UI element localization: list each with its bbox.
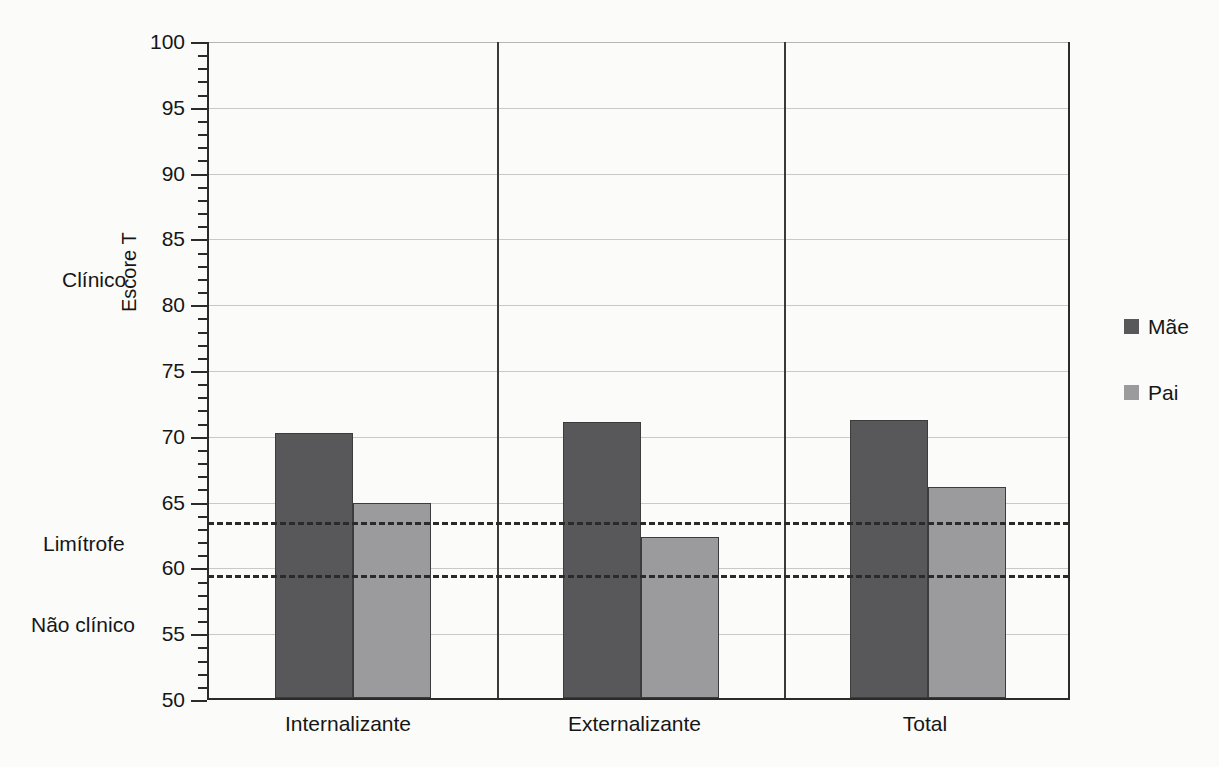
- y-tick-minor-54: [198, 647, 207, 649]
- y-tick-label-90: 90: [162, 163, 185, 184]
- zone-label-limitrofe: Limítrofe: [43, 532, 125, 556]
- legend-label-pai: Pai: [1148, 382, 1178, 403]
- x-category-label-1: Externalizante: [491, 712, 778, 736]
- y-tick-label-65: 65: [162, 492, 185, 513]
- gridline-75: [209, 371, 1068, 372]
- y-tick-minor-94: [198, 121, 207, 123]
- y-tick-major-80: [191, 305, 207, 307]
- y-tick-minor-59: [198, 582, 207, 584]
- y-tick-label-95: 95: [162, 97, 185, 118]
- y-tick-label-75: 75: [162, 360, 185, 381]
- y-tick-major-70: [191, 437, 207, 439]
- legend-label-mae: Mãe: [1148, 316, 1189, 337]
- y-tick-minor-51: [198, 687, 207, 689]
- x-category-label-2: Total: [781, 712, 1069, 736]
- y-tick-minor-63: [198, 529, 207, 531]
- y-tick-label-100: 100: [150, 31, 185, 52]
- y-tick-minor-66: [198, 489, 207, 491]
- y-tick-label-85: 85: [162, 228, 185, 249]
- bar-mae-2: [850, 420, 928, 698]
- y-tick-minor-83: [198, 266, 207, 268]
- bar-pai-0: [353, 503, 431, 698]
- y-tick-label-70: 70: [162, 426, 185, 447]
- y-tick-minor-67: [198, 476, 207, 478]
- group-separator-1: [497, 42, 499, 698]
- zone-label-nao-clinico: Não clínico: [31, 613, 135, 637]
- y-tick-minor-53: [198, 661, 207, 663]
- y-tick-major-95: [191, 108, 207, 110]
- group-separator-2: [784, 42, 786, 698]
- zone-label-clinico: Clínico: [62, 268, 126, 292]
- y-tick-minor-64: [198, 516, 207, 518]
- y-tick-label-50: 50: [162, 689, 185, 710]
- y-tick-minor-96: [198, 95, 207, 97]
- y-tick-minor-57: [198, 608, 207, 610]
- y-tick-minor-99: [198, 55, 207, 57]
- y-tick-minor-61: [198, 555, 207, 557]
- gridline-80: [209, 305, 1068, 306]
- y-tick-minor-74: [198, 384, 207, 386]
- y-tick-minor-56: [198, 621, 207, 623]
- y-tick-minor-68: [198, 463, 207, 465]
- chart-figure: 50556065707580859095100 Escore T Clínico…: [0, 0, 1219, 767]
- y-tick-minor-76: [198, 358, 207, 360]
- bar-pai-2: [928, 487, 1006, 698]
- y-tick-major-90: [191, 174, 207, 176]
- y-tick-minor-73: [198, 397, 207, 399]
- y-tick-minor-91: [198, 160, 207, 162]
- y-tick-major-75: [191, 371, 207, 373]
- y-tick-label-80: 80: [162, 294, 185, 315]
- gridline-95: [209, 108, 1068, 109]
- y-tick-minor-87: [198, 213, 207, 215]
- y-axis: 50556065707580859095100: [0, 0, 207, 767]
- legend-item-mae: Mãe: [1124, 312, 1219, 340]
- y-tick-label-55: 55: [162, 623, 185, 644]
- y-tick-label-60: 60: [162, 557, 185, 578]
- chart-legend: Mãe Pai: [1124, 312, 1219, 444]
- y-tick-minor-97: [198, 81, 207, 83]
- y-tick-minor-78: [198, 332, 207, 334]
- y-tick-major-50: [191, 700, 207, 702]
- legend-swatch-pai-icon: [1124, 385, 1139, 400]
- y-tick-major-85: [191, 239, 207, 241]
- legend-swatch-mae-icon: [1124, 319, 1139, 334]
- y-tick-minor-98: [198, 68, 207, 70]
- y-tick-minor-79: [198, 318, 207, 320]
- y-tick-minor-89: [198, 187, 207, 189]
- y-tick-minor-86: [198, 226, 207, 228]
- y-tick-minor-81: [198, 292, 207, 294]
- y-tick-major-65: [191, 503, 207, 505]
- y-tick-major-55: [191, 634, 207, 636]
- y-tick-minor-92: [198, 147, 207, 149]
- legend-item-pai: Pai: [1124, 378, 1219, 406]
- y-tick-major-60: [191, 568, 207, 570]
- gridline-90: [209, 174, 1068, 175]
- bar-pai-1: [641, 537, 719, 698]
- y-tick-minor-88: [198, 200, 207, 202]
- plot-area: [207, 42, 1070, 700]
- bar-mae-1: [563, 422, 641, 698]
- y-tick-minor-72: [198, 410, 207, 412]
- y-tick-minor-71: [198, 424, 207, 426]
- gridline-85: [209, 239, 1068, 240]
- y-tick-minor-84: [198, 253, 207, 255]
- threshold-line-limiar-clinico: [208, 522, 1069, 525]
- gridline-100: [209, 42, 1068, 43]
- y-tick-minor-62: [198, 542, 207, 544]
- y-tick-minor-77: [198, 345, 207, 347]
- y-tick-major-100: [191, 42, 207, 44]
- y-tick-minor-69: [198, 450, 207, 452]
- y-tick-minor-82: [198, 279, 207, 281]
- x-category-label-0: Internalizante: [208, 712, 488, 736]
- bar-mae-0: [275, 433, 353, 698]
- y-tick-minor-93: [198, 134, 207, 136]
- y-tick-minor-52: [198, 674, 207, 676]
- y-tick-minor-58: [198, 595, 207, 597]
- threshold-line-limiar-limitrofe: [208, 575, 1069, 578]
